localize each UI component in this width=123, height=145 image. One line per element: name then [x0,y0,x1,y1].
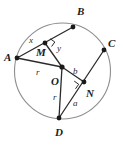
right-angle-at-M [50,39,55,47]
point-label-C: C [108,38,115,49]
point-M [43,41,48,46]
point-label-M: M [36,47,46,58]
measure-label-r-lower: r [53,93,57,102]
measure-label-r-upper: r [36,68,40,77]
measure-label-a: a [73,99,78,108]
point-D [57,116,62,121]
point-B [71,25,76,30]
point-label-N: N [86,88,94,99]
radius-OA [17,58,62,67]
geometry-canvas [0,0,123,145]
point-label-D: D [55,127,63,138]
point-N [82,80,87,85]
right-angle-at-N [74,81,79,89]
measure-label-y: y [57,44,61,53]
measure-label-b: b [73,67,78,76]
point-C [102,48,107,53]
circle-chord-diagram: A B C D O M N x y r r b a [0,0,123,145]
chord-CD [59,50,104,118]
measure-label-x: x [29,36,33,45]
point-O [59,64,64,69]
radius-OD [59,67,62,118]
point-label-O: O [51,76,59,87]
point-A [15,56,20,61]
point-label-A: A [4,52,11,63]
point-label-B: B [77,6,84,17]
